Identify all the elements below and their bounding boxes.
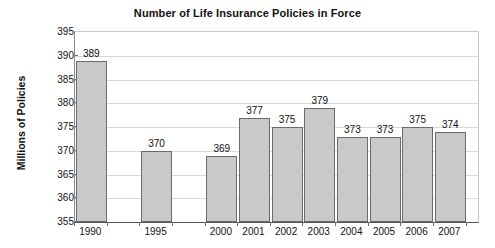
x-axis-tick-label-2007: 2007 [438, 226, 460, 237]
bar-value-label-2003: 379 [311, 95, 328, 106]
bar-2005 [370, 137, 401, 223]
x-axis-tick-label-2006: 2006 [406, 226, 428, 237]
bar-2002 [272, 127, 303, 222]
bar-2000 [206, 156, 237, 223]
y-axis-tick-labels: 395390385380375370365360355 [42, 31, 74, 222]
bar-value-label-2001: 377 [246, 105, 263, 116]
bar-2003 [304, 108, 335, 222]
x-axis-tick-label-2000: 2000 [210, 226, 232, 237]
x-axis-tick-label-2001: 2001 [242, 226, 264, 237]
plot-area: 389370369377375379373373375374 [74, 31, 479, 223]
y-axis-tick-label: 395 [48, 26, 74, 37]
y-axis-title: Millions of Policies [15, 53, 27, 193]
bar-2007 [435, 132, 466, 222]
bar-1995 [141, 151, 172, 222]
y-axis-tick-label: 380 [48, 97, 74, 108]
x-axis-tick-label-2002: 2002 [275, 226, 297, 237]
bar-value-label-2000: 369 [213, 143, 230, 154]
bar-2004 [337, 137, 368, 223]
x-axis-tick-label-1995: 1995 [144, 226, 166, 237]
gridline [75, 80, 478, 81]
x-axis-tick-label-1990: 1990 [79, 226, 101, 237]
x-axis-tick-label-2004: 2004 [340, 226, 362, 237]
y-axis-tick-label: 375 [48, 121, 74, 132]
x-axis-tick-label-2003: 2003 [308, 226, 330, 237]
bar-value-label-2007: 374 [442, 119, 459, 130]
bar-value-label-2006: 375 [409, 114, 426, 125]
bar-2001 [239, 118, 270, 223]
bar-chart: Number of Life Insurance Policies in For… [0, 0, 495, 248]
y-axis-tick-label: 385 [48, 73, 74, 84]
x-axis-tick-labels: 1990199520002001200220032004200520062007 [0, 226, 495, 246]
y-axis-tick-label: 355 [48, 216, 74, 227]
chart-title: Number of Life Insurance Policies in For… [0, 7, 495, 19]
bar-value-label-1990: 389 [83, 48, 100, 59]
y-axis-tick-label: 360 [48, 192, 74, 203]
bar-value-label-2004: 373 [344, 124, 361, 135]
y-axis-tick-label: 365 [48, 168, 74, 179]
bar-value-label-1995: 370 [148, 138, 165, 149]
bar-value-label-2005: 373 [377, 124, 394, 135]
bar-1990 [76, 61, 107, 223]
x-axis-tick-label-2005: 2005 [373, 226, 395, 237]
bar-2006 [402, 127, 433, 222]
bar-value-label-2002: 375 [279, 114, 296, 125]
gridline [75, 103, 478, 104]
y-axis-tick-label: 370 [48, 144, 74, 155]
gridline [75, 56, 478, 57]
y-axis-tick-label: 390 [48, 49, 74, 60]
